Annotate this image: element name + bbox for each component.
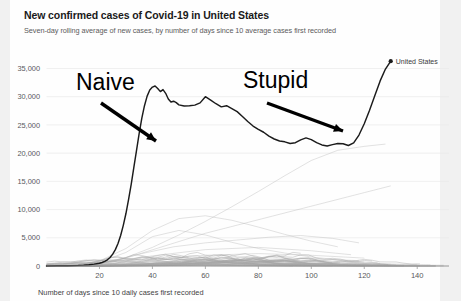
axes-group: [47, 266, 450, 269]
x-tick-label-40: 40: [148, 271, 156, 280]
y-tick-label-5000: 5,000: [22, 233, 41, 242]
series-line-other-country-4: [47, 186, 391, 266]
y-tick-label-30000: 30,000: [17, 92, 40, 101]
annotation-arrow-naive: [101, 103, 156, 141]
annotation-label-stupid: Stupid: [243, 67, 308, 93]
y-tick-label-10000: 10,000: [17, 205, 40, 214]
x-tick-label-20: 20: [95, 271, 103, 280]
legend-label-united-states[interactable]: United States: [396, 58, 439, 65]
x-axis-title: Number of days since 10 daily cases firs…: [38, 288, 204, 297]
page-background: New confirmed cases of Covid-19 in Unite…: [0, 0, 461, 301]
series-line-other-country-2: [47, 144, 386, 266]
other-countries-lines-group: [47, 144, 444, 266]
y-tick-label-20000: 20,000: [17, 149, 40, 158]
annotation-label-naive: Naive: [76, 69, 135, 95]
x-tick-label-140: 140: [411, 271, 424, 280]
dot-marker: [389, 59, 393, 63]
y-tick-label-35000: 35,000: [17, 64, 40, 73]
x-tick-label-80: 80: [254, 271, 262, 280]
y-axis-tick-labels: 05,00010,00015,00020,00025,00030,00035,0…: [17, 64, 40, 271]
y-tick-label-25000: 25,000: [17, 121, 40, 130]
y-tick-label-0: 0: [36, 262, 40, 271]
covid-line-chart: 05,00010,00015,00020,00025,00030,00035,0…: [0, 0, 461, 301]
x-tick-label-120: 120: [358, 271, 371, 280]
x-tick-label-60: 60: [201, 271, 209, 280]
y-tick-label-15000: 15,000: [17, 177, 40, 186]
annotations-group: NaiveStupid: [76, 67, 343, 141]
chart-plot-area: 05,00010,00015,00020,00025,00030,00035,0…: [0, 0, 461, 301]
x-axis-tick-labels: 20406080100120140: [95, 271, 423, 280]
x-tick-label-100: 100: [305, 271, 318, 280]
annotation-arrow-stupid: [267, 103, 343, 132]
legend[interactable]: United States: [389, 58, 439, 65]
